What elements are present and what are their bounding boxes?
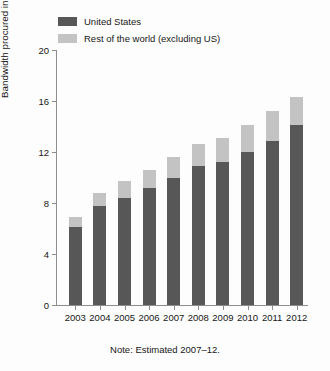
x-axis-tick-label: 2009 <box>212 312 233 323</box>
bar-segment-rest-of-world <box>93 193 106 206</box>
bar-stack <box>167 157 180 305</box>
x-axis-tick <box>174 306 175 310</box>
y-axis-tick-label: 8 <box>44 198 49 209</box>
chart-figure: United States Rest of the world (excludi… <box>0 0 330 371</box>
x-axis-tick-label: 2006 <box>139 312 160 323</box>
x-axis-tick <box>223 306 224 310</box>
x-axis-line <box>56 305 308 306</box>
x-axis-tick <box>100 306 101 310</box>
y-axis-title: Bandwidth procured in gigabits per secon… <box>0 0 10 98</box>
y-axis-tick <box>52 254 56 255</box>
bar-stack <box>290 97 303 305</box>
y-axis-tick <box>52 50 56 51</box>
y-axis-tick <box>52 203 56 204</box>
bar-segment-united-states <box>93 206 106 305</box>
bar-stack <box>118 181 131 305</box>
bar-segment-rest-of-world <box>118 181 131 198</box>
bar-segment-united-states <box>143 188 156 305</box>
bar-segment-rest-of-world <box>241 125 254 152</box>
x-axis-tick-label: 2004 <box>89 312 110 323</box>
bar-stack <box>192 144 205 305</box>
bar-segment-rest-of-world <box>143 170 156 188</box>
bar-stack <box>69 217 82 305</box>
bar-segment-united-states <box>290 125 303 305</box>
bar-segment-rest-of-world <box>216 138 229 162</box>
bar-segment-rest-of-world <box>192 144 205 166</box>
x-axis-tick-label: 2011 <box>262 312 282 323</box>
bar-segment-united-states <box>241 152 254 305</box>
x-axis-tick-label: 2010 <box>237 312 258 323</box>
x-axis-tick <box>272 306 273 310</box>
y-axis-tick-label: 4 <box>44 249 49 260</box>
legend-label-rest-of-world: Rest of the world (excluding US) <box>84 33 220 44</box>
bar-segment-united-states <box>266 141 279 305</box>
y-axis-tick-label: 16 <box>38 96 49 107</box>
legend-swatch-icon-rest-of-world <box>58 34 77 43</box>
bar-segment-rest-of-world <box>266 111 279 140</box>
x-axis-tick <box>198 306 199 310</box>
chart-legend: United States Rest of the world (excludi… <box>58 14 308 48</box>
bar-stack <box>143 170 156 305</box>
y-axis-tick <box>52 305 56 306</box>
bar-stack <box>216 138 229 305</box>
bar-series-group <box>57 50 308 305</box>
bar-segment-rest-of-world <box>167 157 180 177</box>
bar-segment-rest-of-world <box>290 97 303 125</box>
legend-label-united-states: United States <box>84 16 141 27</box>
y-axis-tick-label: 12 <box>38 147 49 158</box>
x-axis-tick <box>75 306 76 310</box>
y-axis-tick <box>52 101 56 102</box>
y-axis-tick-label: 0 <box>44 300 49 311</box>
bar-stack <box>266 111 279 305</box>
x-axis-tick <box>149 306 150 310</box>
x-axis-tick-label: 2012 <box>286 312 307 323</box>
bar-segment-united-states <box>192 166 205 305</box>
y-axis-tick <box>52 152 56 153</box>
bar-segment-united-states <box>118 198 131 305</box>
bar-segment-rest-of-world <box>69 217 82 227</box>
y-axis-tick-label: 20 <box>38 45 49 56</box>
bar-stack <box>93 193 106 305</box>
plot-area: 048121620 <box>56 50 308 306</box>
x-axis-tick-label: 2003 <box>65 312 86 323</box>
x-axis-tick <box>297 306 298 310</box>
bar-segment-united-states <box>216 162 229 305</box>
legend-item-rest-of-world: Rest of the world (excluding US) <box>58 31 308 46</box>
legend-swatch-icon-united-states <box>58 17 77 26</box>
x-axis-tick-label: 2008 <box>188 312 209 323</box>
bar-segment-united-states <box>69 227 82 305</box>
x-axis-tick <box>248 306 249 310</box>
x-axis-tick-label: 2005 <box>114 312 135 323</box>
chart-note: Note: Estimated 2007–12. <box>0 344 330 355</box>
bar-segment-united-states <box>167 178 180 306</box>
legend-item-united-states: United States <box>58 14 308 29</box>
x-axis-tick <box>125 306 126 310</box>
x-axis-tick-label: 2007 <box>163 312 184 323</box>
bar-stack <box>241 125 254 305</box>
